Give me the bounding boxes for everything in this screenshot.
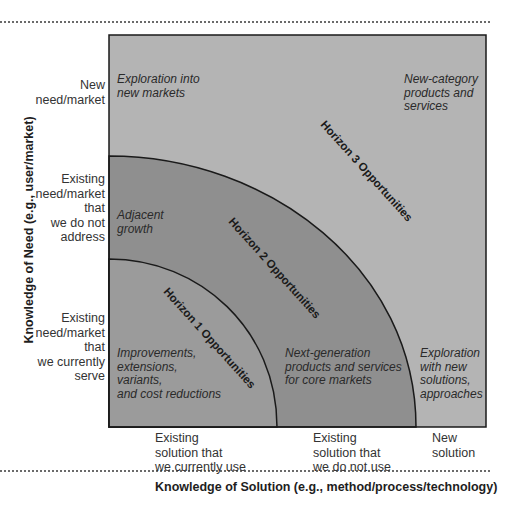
zone-line: New-category <box>404 73 478 87</box>
y-level-line: Existing <box>36 172 105 187</box>
y-level-line: New <box>36 78 105 93</box>
zone-line: Exploration <box>420 347 483 361</box>
x-level-line: solution that <box>313 446 391 461</box>
zone-next-generation: Next-generation products and services fo… <box>285 347 402 388</box>
zone-improvements: Improvements, extensions, variants, and … <box>117 347 221 401</box>
x-axis-title: Knowledge of Solution (e.g., method/proc… <box>155 480 497 494</box>
y-level-existing-not-addressed: Existing need/market that we do not addr… <box>36 172 105 245</box>
zone-line: approaches <box>420 388 483 402</box>
y-level-line: we do not <box>36 216 105 231</box>
y-axis-title: Knowledge of Need (e.g., user/market) <box>22 116 36 343</box>
y-level-line: address <box>36 230 105 245</box>
x-level-line: Existing <box>313 431 391 446</box>
zone-line: solutions, <box>420 374 483 388</box>
zone-line: Adjacent <box>117 209 164 223</box>
zone-line: variants, <box>117 374 221 388</box>
x-level-line: we currently use <box>155 460 246 475</box>
zone-line: with new <box>420 361 483 375</box>
zone-line: Improvements, <box>117 347 221 361</box>
zone-new-category: New-category products and services <box>404 73 478 114</box>
zone-adjacent-growth: Adjacent growth <box>117 209 164 236</box>
zone-exploration-new-solutions: Exploration with new solutions, approach… <box>420 347 483 401</box>
zone-line: services <box>404 100 478 114</box>
x-level-line: solution that <box>155 446 246 461</box>
zone-line: extensions, <box>117 361 221 375</box>
x-level-line: New <box>432 431 475 446</box>
zone-line: growth <box>117 223 164 237</box>
y-level-line: need/market <box>36 187 105 202</box>
zone-line: new markets <box>117 87 200 101</box>
x-level-new-solution: New solution <box>432 431 475 460</box>
y-level-line: we currently <box>36 355 105 370</box>
y-level-line: need/market <box>36 326 105 341</box>
zone-line: Exploration into <box>117 73 200 87</box>
y-level-line: Existing <box>36 311 105 326</box>
zone-line: products and <box>404 87 478 101</box>
y-level-line: that <box>36 340 105 355</box>
y-level-new-need: New need/market <box>36 78 105 107</box>
x-level-line: Existing <box>155 431 246 446</box>
x-level-existing-not-used: Existing solution that we do not use <box>313 431 391 475</box>
x-level-existing-used: Existing solution that we currently use <box>155 431 246 475</box>
zone-line: for core markets <box>285 374 402 388</box>
zone-line: and cost reductions <box>117 388 221 402</box>
zone-exploration-new-markets: Exploration into new markets <box>117 73 200 100</box>
zone-line: Next-generation <box>285 347 402 361</box>
x-level-line: we do not use <box>313 460 391 475</box>
y-level-existing-served: Existing need/market that we currently s… <box>36 311 105 384</box>
y-level-line: serve <box>36 369 105 384</box>
y-level-line: that <box>36 201 105 216</box>
y-level-line: need/market <box>36 93 105 108</box>
zone-line: products and services <box>285 361 402 375</box>
x-level-line: solution <box>432 446 475 461</box>
